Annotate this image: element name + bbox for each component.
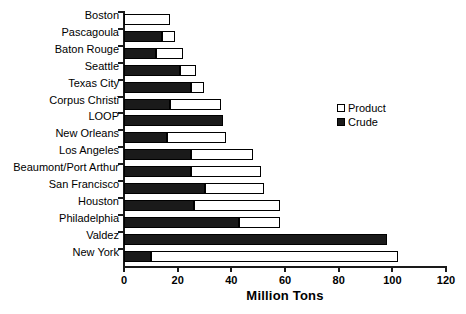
x-axis-tick-label: 80 <box>319 274 359 286</box>
y-axis-label-boston: Boston <box>0 10 119 21</box>
bar-segment-product <box>180 65 196 76</box>
legend-item-crude: Crude <box>337 115 386 129</box>
bar-segment-crude <box>124 251 151 262</box>
bar-segment-crude <box>124 200 194 211</box>
x-axis-tick-label: 20 <box>158 274 198 286</box>
legend-label-crude: Crude <box>348 115 378 129</box>
x-axis-tick-label: 100 <box>372 274 412 286</box>
legend-swatch-product-icon <box>337 104 345 112</box>
y-axis-label-loop: LOOP <box>0 111 119 122</box>
y-axis-label-seattle: Seattle <box>0 61 119 72</box>
y-axis-label-houston: Houston <box>0 196 119 207</box>
bar-segment-product <box>239 217 279 228</box>
y-axis-label-baton-rouge: Baton Rouge <box>0 44 119 55</box>
bar-segment-product <box>162 31 175 42</box>
bar-segment-crude <box>124 166 191 177</box>
x-axis-tick <box>391 266 393 272</box>
bar-chart: BostonPascagoulaBaton RougeSeattleTexas … <box>0 0 466 314</box>
bar-segment-product <box>124 14 170 25</box>
bar-segment-product <box>151 251 398 262</box>
x-axis-title: Million Tons <box>124 288 446 303</box>
x-axis-tick <box>338 266 340 272</box>
bar-segment-crude <box>124 82 191 93</box>
bar-segment-crude <box>124 48 156 59</box>
bar-segment-crude <box>124 183 205 194</box>
x-axis-tick-label: 60 <box>265 274 305 286</box>
bar-segment-crude <box>124 65 180 76</box>
y-axis-label-philadelphia: Philadelphia <box>0 213 119 224</box>
bar-segment-crude <box>124 234 387 245</box>
y-axis-label-valdez: Valdez <box>0 230 119 241</box>
legend-label-product: Product <box>348 101 386 115</box>
bar-segment-product <box>191 166 261 177</box>
bar-segment-product <box>156 48 183 59</box>
x-axis-tick-label: 40 <box>211 274 251 286</box>
bar-segment-product <box>167 132 226 143</box>
y-axis-label-san-francisco: San Francisco <box>0 179 119 190</box>
bar-segment-product <box>191 82 204 93</box>
y-axis-label-corpus-christi: Corpus Christi <box>0 95 119 106</box>
chart-legend: Product Crude <box>337 101 386 129</box>
x-axis-tick-label: 120 <box>426 274 466 286</box>
bar-segment-crude <box>124 217 239 228</box>
x-axis-tick-label: 0 <box>104 274 144 286</box>
bar-segment-crude <box>124 99 170 110</box>
bar-segment-crude <box>124 115 223 126</box>
y-axis-label-texas-city: Texas City <box>0 78 119 89</box>
bar-segment-product <box>194 200 280 211</box>
legend-item-product: Product <box>337 101 386 115</box>
bar-segment-crude <box>124 149 191 160</box>
y-axis-label-new-orleans: New Orleans <box>0 128 119 139</box>
bar-segment-product <box>191 149 253 160</box>
bar-segment-product <box>205 183 264 194</box>
bar-segment-product <box>170 99 221 110</box>
y-axis-label-pascagoula: Pascagoula <box>0 27 119 38</box>
x-axis-tick <box>123 266 125 272</box>
bar-segment-crude <box>124 31 162 42</box>
y-axis-label-beaumont-port-arthur: Beaumont/Port Arthur <box>0 162 119 173</box>
bar-segment-crude <box>124 132 167 143</box>
y-axis-label-new-york: New York <box>0 247 119 258</box>
legend-swatch-crude-icon <box>337 118 345 126</box>
x-axis-tick <box>230 266 232 272</box>
x-axis-tick <box>177 266 179 272</box>
x-axis-tick <box>284 266 286 272</box>
x-axis-tick <box>445 266 447 272</box>
y-axis-label-los-angeles: Los Angeles <box>0 145 119 156</box>
